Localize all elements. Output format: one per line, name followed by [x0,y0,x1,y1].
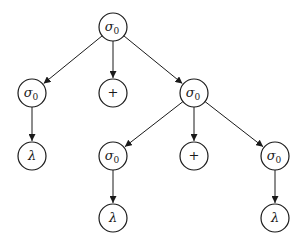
node-label: + [189,148,200,163]
node-label: λ [27,148,36,163]
tree-node: λ [18,142,46,170]
edge-arrow [124,36,183,84]
nodes: σ0σ0+σ0λσ0+σ0λλ [18,13,289,232]
node-label: + [108,85,119,100]
tree-node: σ0 [261,142,289,170]
tree-node: + [99,79,127,107]
tree-node: σ0 [180,79,208,107]
edge-arrow [125,102,183,147]
edge-arrow [44,36,103,84]
tree-node: σ0 [99,142,127,170]
tree-diagram: σ0σ0+σ0λσ0+σ0λλ [0,0,305,249]
edges [32,36,275,203]
tree-node: λ [99,204,127,232]
tree-node: σ0 [18,79,46,107]
tree-node: λ [261,204,289,232]
tree-node: σ0 [99,13,127,41]
node-label: λ [108,210,117,225]
tree-node: + [180,142,208,170]
edge-arrow [205,102,263,147]
node-label: λ [270,210,279,225]
